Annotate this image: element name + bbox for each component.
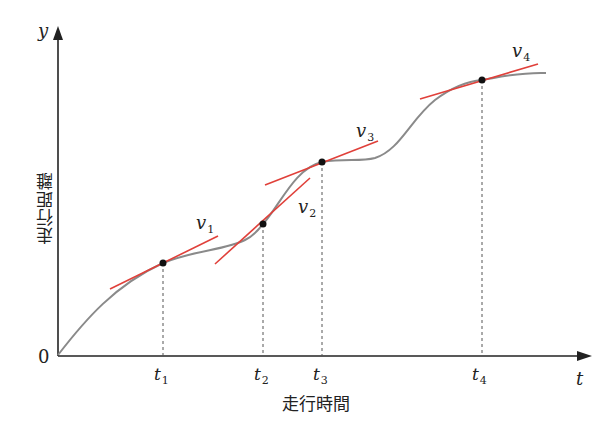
v3-base: v [356,120,366,141]
tick-t1-sub: 1 [162,374,169,387]
point-t2 [260,221,267,228]
v2-sub: 2 [309,207,316,220]
v3-sub: 3 [367,131,374,144]
tick-t4: t4 [472,364,487,384]
tick-t2-sub: 2 [262,374,269,387]
tangent-lines [110,64,538,289]
tick-t1-base: t [154,364,161,384]
tick-t3-base: t [313,364,320,384]
y-axis-symbol: y [38,20,48,41]
velocity-label-v2: v2 [298,196,316,217]
distance-time-diagram: y t 0 走行距離 走行時間 t1 t2 t3 t4 v1 v2 v3 v4 [0,0,610,434]
y-axis-label: 走行距離 [32,172,57,244]
v4-sub: 4 [523,51,530,64]
v1-base: v [196,212,206,233]
point-t3 [319,159,326,166]
point-t1 [160,260,167,267]
velocity-label-v4: v4 [512,40,530,61]
x-axis-arrow-icon [577,351,592,361]
tick-t3-sub: 3 [321,374,328,387]
tick-t4-sub: 4 [480,374,487,387]
velocity-label-v1: v1 [196,212,214,233]
tick-t1: t1 [154,364,169,384]
diagram-canvas [0,0,610,434]
x-axis-symbol: t [576,368,583,389]
tangent-points [160,77,486,267]
tick-t3: t3 [313,364,328,384]
v2-base: v [298,196,308,217]
velocity-label-v3: v3 [356,120,374,141]
v4-base: v [512,40,522,61]
tick-t2: t2 [254,364,269,384]
tick-t2-base: t [254,364,261,384]
y-axis-arrow-icon [53,26,63,40]
point-t4 [479,77,486,84]
v1-sub: 1 [207,223,214,236]
x-axis-label: 走行時間 [282,390,350,415]
origin-label: 0 [38,346,49,367]
tick-t4-base: t [472,364,479,384]
